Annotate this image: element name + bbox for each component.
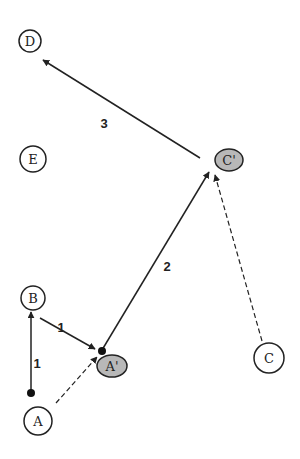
edge-label-b-to-a-prime: 1 bbox=[57, 320, 64, 335]
node-d: D bbox=[19, 30, 41, 52]
node-e: E bbox=[20, 146, 46, 172]
node-a: A bbox=[24, 407, 52, 435]
node-c-prime-label: C' bbox=[222, 153, 236, 168]
node-b-label: B bbox=[28, 291, 38, 306]
node-c: C bbox=[254, 343, 284, 373]
edge-b-to-a-prime bbox=[40, 318, 95, 349]
node-e-label: E bbox=[28, 152, 38, 167]
node-b: B bbox=[21, 286, 45, 310]
edge-labels: 1 1 2 3 bbox=[33, 116, 170, 371]
start-dots bbox=[27, 347, 106, 397]
node-d-label: D bbox=[25, 34, 35, 49]
dashed-edge-c-to-c-prime bbox=[215, 175, 262, 341]
start-dot-a bbox=[27, 389, 35, 397]
edge-c-prime-to-d bbox=[43, 60, 200, 158]
nodes: D E B A C A' C' bbox=[19, 30, 284, 435]
node-a-prime-label: A' bbox=[105, 359, 119, 374]
diagram-canvas: 1 1 2 3 D E B A C A' C bbox=[0, 0, 300, 459]
edges bbox=[31, 60, 262, 403]
start-dot-a-prime bbox=[98, 347, 106, 355]
edge-label-a-prime-to-c-prime: 2 bbox=[163, 259, 170, 274]
edge-a-prime-to-c-prime bbox=[102, 172, 209, 350]
node-a-label: A bbox=[32, 414, 43, 429]
edge-label-c-prime-to-d: 3 bbox=[100, 116, 107, 131]
node-c-prime: C' bbox=[215, 149, 243, 171]
dashed-edge-a-to-a-prime bbox=[56, 357, 97, 403]
node-c-label: C bbox=[264, 351, 274, 366]
node-a-prime: A' bbox=[97, 355, 127, 377]
edge-label-a-to-b: 1 bbox=[33, 356, 40, 371]
